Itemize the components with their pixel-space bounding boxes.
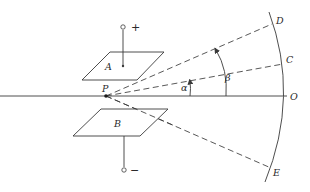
angle-alpha-label: α bbox=[181, 82, 188, 93]
plate-b-terminal-icon bbox=[122, 168, 126, 172]
plate-a-label: A bbox=[104, 61, 112, 72]
point-p-dot bbox=[104, 94, 108, 98]
plate-a-polarity: + bbox=[131, 21, 140, 34]
point-e-label: E bbox=[272, 167, 280, 178]
plate-a-contact-dot bbox=[122, 65, 124, 67]
plate-b-polarity: − bbox=[130, 164, 139, 177]
point-d-label: D bbox=[275, 15, 284, 26]
point-p-label: P bbox=[101, 83, 109, 94]
screen-arc bbox=[265, 12, 284, 182]
plate-a-terminal-icon bbox=[121, 25, 125, 29]
point-o-label: O bbox=[290, 91, 298, 102]
plate-b: − B bbox=[73, 109, 168, 177]
angle-alpha-arrow-icon bbox=[190, 82, 191, 97]
plate-b-label: B bbox=[113, 118, 121, 129]
plate-a: + A bbox=[82, 21, 164, 80]
angle-beta-label: β bbox=[224, 72, 231, 83]
point-c-label: C bbox=[286, 54, 294, 65]
deflection-diagram: + A − B P α β D C O E bbox=[0, 0, 310, 192]
